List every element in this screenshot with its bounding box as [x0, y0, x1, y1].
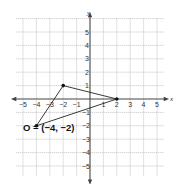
y-tick-label: 1 [85, 82, 89, 89]
y-tick-label: −3 [82, 136, 90, 143]
x-tick-label: −2 [59, 101, 67, 108]
coordinate-plane: −5−4−3−2−11234554321−1−2−3−4−5 x y O = (… [0, 0, 179, 184]
y-tick-label: 5 [85, 29, 89, 36]
point-o-label: O = (−4, −2) [23, 122, 75, 133]
x-tick-label: −1 [73, 101, 81, 108]
x-tick-label: −5 [19, 101, 27, 108]
x-tick-label: 1 [101, 101, 105, 108]
y-tick-label: 3 [85, 55, 89, 62]
y-tick-label: 4 [85, 42, 89, 49]
x-axis-arrow-right-icon [164, 97, 169, 101]
y-tick-label: −4 [82, 149, 90, 156]
y-tick-label: 2 [85, 69, 89, 76]
vertex-point [115, 97, 119, 101]
axes [11, 12, 169, 184]
vertex-point [61, 84, 65, 88]
x-tick-label: 3 [128, 101, 132, 108]
x-tick-label: 4 [142, 101, 146, 108]
x-tick-label: 5 [155, 101, 159, 108]
y-axis-arrow-down-icon [88, 179, 92, 184]
x-axis-label: x [169, 95, 174, 103]
x-axis-arrow-left-icon [11, 97, 16, 101]
y-tick-label: −2 [82, 122, 90, 129]
y-tick-label: −5 [82, 163, 90, 170]
x-tick-label: −4 [32, 101, 40, 108]
x-tick-label: 2 [115, 101, 119, 108]
